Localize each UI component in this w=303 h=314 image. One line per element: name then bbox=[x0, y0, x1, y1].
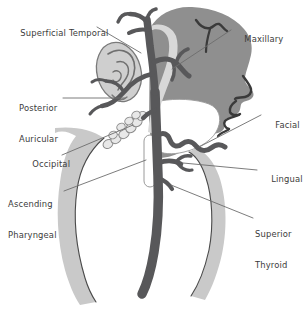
lingual-branch-upper bbox=[176, 156, 191, 162]
label-occipital[interactable]: Occipital bbox=[21, 149, 70, 180]
label-ascending-pharyngeal-line2: Pharyngeal bbox=[8, 230, 57, 240]
label-maxillary-text: Maxillary bbox=[244, 34, 283, 44]
posterior-auricular-branch-lower bbox=[90, 106, 102, 114]
superficial-temporal-branch-distal bbox=[118, 14, 130, 22]
label-superior-thyroid[interactable]: Superior Thyroid bbox=[255, 209, 292, 291]
label-ascending-pharyngeal-line1: Ascending bbox=[8, 199, 57, 209]
label-superficial-temporal[interactable]: Superficial Temporal bbox=[9, 18, 108, 49]
superficial-temporal-branch-anterior bbox=[130, 14, 147, 22]
label-posterior-auricular-line1: Posterior bbox=[19, 103, 58, 113]
label-superior-thyroid-line1: Superior bbox=[255, 229, 292, 239]
mandible-white-region bbox=[155, 99, 220, 153]
label-maxillary[interactable]: Maxillary bbox=[233, 24, 283, 55]
label-facial-text: Facial bbox=[275, 120, 299, 130]
label-superior-thyroid-line2: Thyroid bbox=[255, 260, 292, 270]
anatomical-diagram: Superficial Temporal Posterior Auricular… bbox=[0, 0, 303, 314]
label-lingual-text: Lingual bbox=[271, 174, 302, 184]
label-occipital-text: Occipital bbox=[32, 159, 70, 169]
label-facial[interactable]: Facial bbox=[264, 110, 300, 141]
label-posterior-auricular-line2: Auricular bbox=[19, 134, 58, 144]
occipital-node-chain bbox=[101, 110, 148, 151]
superficial-temporal-branch-frontal bbox=[147, 9, 156, 20]
lingual-branch-lower bbox=[178, 164, 192, 170]
anterior-neck-band-lower bbox=[189, 148, 226, 300]
label-lingual[interactable]: Lingual bbox=[260, 164, 303, 195]
leader-lingual bbox=[183, 163, 257, 170]
label-superficial-temporal-text: Superficial Temporal bbox=[20, 28, 108, 38]
label-ascending-pharyngeal[interactable]: Ascending Pharyngeal bbox=[8, 179, 57, 261]
